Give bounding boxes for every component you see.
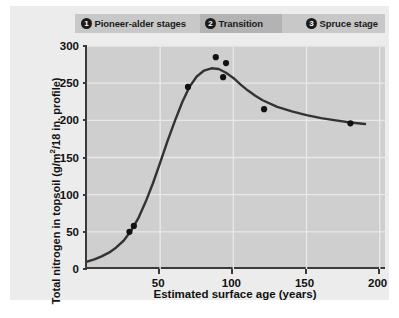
- y-tick-mark: [83, 119, 87, 121]
- y-tick-label: 50: [66, 226, 79, 238]
- stage-banner: 1 Pioneer-alder stages 2 Transition 3 Sp…: [75, 14, 385, 33]
- data-point-marker: [220, 74, 226, 80]
- stage-label-1: Pioneer-alder stages: [95, 18, 186, 29]
- x-axis-title: Estimated surface age (years): [85, 288, 385, 300]
- y-axis-title-wrapper: Total nitrogen in topsoil (g/m2/18 in. p…: [24, 34, 44, 284]
- stage-segment-pioneer-alder: 1 Pioneer-alder stages: [75, 14, 200, 33]
- x-tick-mark: [378, 269, 380, 274]
- y-tick-mark: [83, 45, 87, 47]
- x-tick-mark: [158, 269, 160, 274]
- stage-segment-spruce: 3 Spruce stage: [282, 14, 385, 33]
- y-tick-label: 0: [73, 263, 79, 275]
- plot-area: [85, 46, 385, 269]
- y-tick-label: 250: [60, 77, 79, 89]
- data-point-marker: [185, 84, 191, 90]
- y-tick-mark: [83, 82, 87, 84]
- y-tick-mark: [83, 268, 87, 270]
- y-tick-label: 300: [60, 40, 79, 52]
- stage-number-1-icon: 1: [81, 18, 92, 29]
- chart-canvas: [87, 46, 387, 269]
- data-point-marker: [347, 120, 353, 126]
- x-tick-mark: [231, 269, 233, 274]
- stage-label-2: Transition: [219, 18, 263, 29]
- y-tick-label: 100: [60, 189, 79, 201]
- stage-number-2-icon: 2: [205, 18, 216, 29]
- y-axis-title-superscript: 2: [48, 149, 57, 153]
- data-point-marker: [261, 106, 267, 112]
- x-tick-mark: [305, 269, 307, 274]
- y-tick-label: 200: [60, 114, 79, 126]
- y-axis-title: Total nitrogen in topsoil (g/m2/18 in. p…: [48, 66, 62, 316]
- figure-panel: 1 Pioneer-alder stages 2 Transition 3 Sp…: [10, 6, 389, 300]
- y-tick-mark: [83, 231, 87, 233]
- y-tick-mark: [83, 194, 87, 196]
- data-point-marker: [131, 223, 137, 229]
- x-axis-tick-labels: 50100150200: [85, 271, 385, 289]
- stage-segment-transition: 2 Transition: [200, 14, 282, 33]
- data-point-marker: [213, 54, 219, 60]
- stage-number-3-icon: 3: [306, 18, 317, 29]
- y-tick-label: 150: [60, 152, 79, 164]
- y-tick-mark: [83, 157, 87, 159]
- stage-label-3: Spruce stage: [320, 18, 378, 29]
- data-point-marker: [223, 60, 229, 66]
- data-point-marker: [126, 229, 132, 235]
